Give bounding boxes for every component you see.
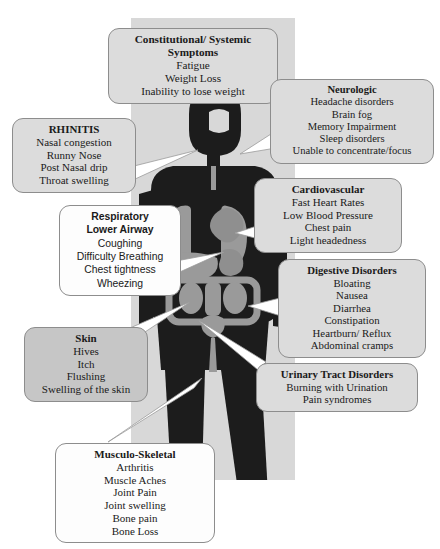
callout-heading: Respiratory (67, 210, 173, 223)
callout-item: Difficulty Breathing (67, 250, 173, 263)
callout-item: Inability to lose weight (116, 85, 270, 98)
callout-item: Flushing (32, 370, 140, 383)
callout-item: Coughing (67, 237, 173, 250)
callout-heading: Digestive Disorders (286, 264, 418, 277)
callout-item: Wheezing (67, 277, 173, 290)
callout-heading: Cardiovascular (262, 183, 394, 196)
callout-item: Throat swelling (20, 174, 128, 187)
callout-item: Runny Nose (20, 149, 128, 162)
callout-item: Itch (32, 358, 140, 371)
callout-item: Memory Impairment (278, 121, 426, 133)
callout-item: Sleep disorders (278, 133, 426, 145)
callout-item: Constipation (286, 314, 418, 327)
callout-item: Light headedness (262, 234, 394, 247)
callout-item: Low Blood Pressure (262, 209, 394, 222)
callout-item: Nasal congestion (20, 136, 128, 149)
callout-item: Fatigue (116, 59, 270, 72)
callout-cardiovascular[interactable]: Cardiovascular Fast Heart Rates Low Bloo… (254, 178, 402, 253)
diagram-canvas: Constitutional/ Systemic Symptoms Fatigu… (0, 0, 440, 549)
callout-rhinitis[interactable]: RHINITIS Nasal congestion Runny Nose Pos… (12, 118, 136, 193)
callout-neurologic[interactable]: Neurologic Headache disorders Brain fog … (270, 79, 434, 164)
callout-item: Bloating (286, 277, 418, 290)
callout-item: Fast Heart Rates (262, 196, 394, 209)
callout-item: Chest tightness (67, 263, 173, 276)
callout-item: Chest pain (262, 221, 394, 234)
callout-item: Bone Loss (63, 525, 207, 538)
callout-item: Diarrhea (286, 302, 418, 315)
callout-item: Headache disorders (278, 96, 426, 108)
callout-item: Nausea (286, 289, 418, 302)
callout-item: Heartburn/ Reflux (286, 327, 418, 340)
callout-item: Arthritis (63, 461, 207, 474)
callout-item: Joint swelling (63, 499, 207, 512)
callout-heading: Constitutional/ Systemic (116, 33, 270, 46)
pointer-urinary (198, 318, 268, 374)
callout-heading: Urinary Tract Disorders (264, 368, 410, 381)
callout-item: Hives (32, 345, 140, 358)
callout-item: Weight Loss (116, 72, 270, 85)
callout-item: Pain syndromes (264, 393, 410, 406)
callout-heading: Neurologic (278, 84, 426, 96)
callout-heading: Musculo-Skeletal (63, 448, 207, 461)
callout-item: Post Nasal drip (20, 161, 128, 174)
callout-item: Muscle Aches (63, 474, 207, 487)
callout-musculoskeletal[interactable]: Musculo-Skeletal Arthritis Muscle Aches … (55, 443, 215, 543)
callout-item: Unable to concentrate/focus (278, 145, 426, 157)
callout-item: Burning with Urination (264, 381, 410, 394)
callout-item: Swelling of the skin (32, 383, 140, 396)
callout-item: Joint Pain (63, 486, 207, 499)
callout-heading-line2: Symptoms (116, 46, 270, 59)
callout-heading: Skin (32, 332, 140, 345)
callout-heading: RHINITIS (20, 123, 128, 136)
callout-constitutional[interactable]: Constitutional/ Systemic Symptoms Fatigu… (108, 28, 278, 104)
callout-skin[interactable]: Skin Hives Itch Flushing Swelling of the… (24, 327, 148, 402)
callout-urinary[interactable]: Urinary Tract Disorders Burning with Uri… (256, 363, 418, 412)
callout-heading-line2: Lower Airway (67, 223, 173, 236)
callout-respiratory[interactable]: Respiratory Lower Airway Coughing Diffic… (59, 205, 181, 296)
callout-digestive[interactable]: Digestive Disorders Bloating Nausea Diar… (278, 259, 426, 358)
callout-item: Bone pain (63, 512, 207, 525)
callout-item: Brain fog (278, 109, 426, 121)
callout-item: Abdominal cramps (286, 339, 418, 352)
